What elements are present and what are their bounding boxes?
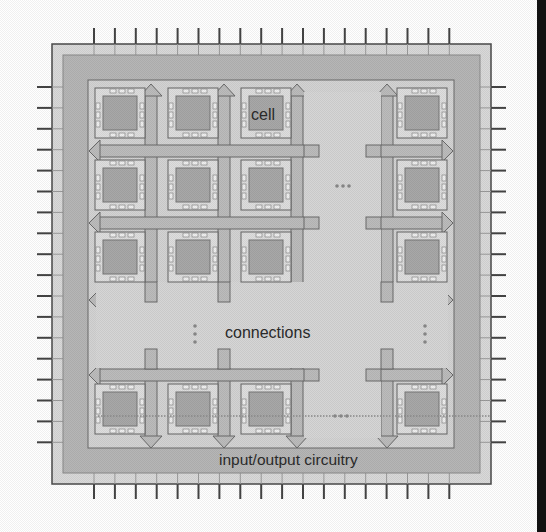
cell	[241, 384, 291, 434]
cell-body	[103, 392, 137, 426]
cell-body	[249, 392, 283, 426]
horizontal-channel	[96, 145, 318, 157]
ellipsis-dot	[193, 332, 197, 336]
ellipsis-dot	[341, 184, 345, 188]
cell-body	[405, 240, 439, 274]
cell	[397, 160, 447, 210]
cell	[95, 88, 145, 138]
ellipsis-dot	[423, 340, 427, 344]
vertical-channel	[145, 92, 157, 438]
cell	[241, 232, 291, 282]
gap-column	[304, 92, 381, 438]
ellipsis-dot	[423, 324, 427, 328]
cell	[168, 88, 218, 138]
cell	[168, 160, 218, 210]
cell	[397, 384, 447, 434]
ellipsis-dot	[347, 184, 351, 188]
cell-label: cell	[251, 107, 275, 123]
cell-body	[249, 240, 283, 274]
horizontal-channel	[96, 369, 318, 381]
cell-body	[103, 96, 137, 130]
cell-body	[405, 96, 439, 130]
cell	[241, 160, 291, 210]
ellipsis-dot	[193, 324, 197, 328]
edge-bar	[537, 0, 546, 532]
vertical-channel	[291, 92, 303, 438]
ellipsis-dot	[423, 332, 427, 336]
cell	[397, 232, 447, 282]
vertical-channel	[218, 92, 230, 438]
chip-diagram: cell connections input/output circuitry	[0, 0, 546, 532]
horizontal-channel	[96, 217, 318, 229]
ellipsis-dot	[335, 184, 339, 188]
cell-body	[176, 96, 210, 130]
cell	[95, 232, 145, 282]
vertical-channel	[381, 92, 393, 438]
cell	[168, 384, 218, 434]
cell-body	[249, 168, 283, 202]
cell-body	[176, 240, 210, 274]
ellipsis-dot	[193, 340, 197, 344]
cell-body	[103, 168, 137, 202]
cell-body	[176, 168, 210, 202]
cell	[95, 384, 145, 434]
connections-label: connections	[225, 325, 310, 341]
io-circuitry-label: input/output circuitry	[219, 452, 358, 468]
cell-body	[405, 168, 439, 202]
cell-body	[103, 240, 137, 274]
cell	[95, 160, 145, 210]
cell	[397, 88, 447, 138]
cell-body	[176, 392, 210, 426]
cell-body	[405, 392, 439, 426]
cell	[168, 232, 218, 282]
